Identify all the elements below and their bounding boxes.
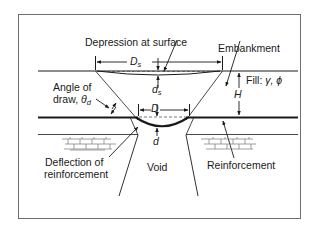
angle-leader — [96, 99, 109, 108]
cavity-edge-right — [186, 117, 194, 135]
void-wall-right — [186, 135, 198, 196]
h-dimension-label: H — [234, 89, 242, 100]
ds-subscript: s — [138, 60, 142, 69]
fill-params: γ, ϕ — [265, 74, 282, 86]
ds-symbol: D — [130, 55, 138, 67]
cavity-edge-left — [130, 117, 138, 135]
depression-label: Depression at surface — [85, 37, 187, 48]
d-depth-label: d — [153, 136, 159, 147]
draw-line-left — [96, 71, 139, 120]
reinforcement-leader — [223, 121, 234, 158]
reinforcement-deflection-curve — [136, 118, 188, 127]
reinforcement-label: Reinforcement — [207, 160, 275, 171]
angle-subscript: d — [87, 98, 91, 107]
deflection-label-line1: Deflection of — [45, 157, 103, 168]
deflection-label-line2: reinforcement — [44, 169, 108, 180]
fill-text: Fill: — [246, 74, 265, 86]
angle-label-line2: draw, θd — [53, 94, 91, 108]
embankment-label: Embankment — [218, 43, 280, 54]
brick-pattern-left — [62, 137, 116, 150]
void-label: Void — [147, 162, 167, 173]
angle-label-line1: Angle of — [53, 82, 92, 93]
fill-label: Fill: γ, ϕ — [246, 75, 282, 86]
ds-dimension-label: Ds — [130, 56, 141, 70]
brick-pattern-right — [201, 137, 256, 149]
ds-depth-subscript: s — [158, 88, 162, 97]
d-dimension-label: D — [151, 103, 159, 114]
angle-arc-arrow-a — [111, 107, 116, 114]
diagram-canvas — [0, 0, 317, 230]
draw-line-right — [186, 71, 223, 120]
angle-text: draw, — [53, 93, 81, 105]
deflection-leader — [109, 127, 138, 157]
ds-depth-label: ds — [152, 84, 162, 98]
